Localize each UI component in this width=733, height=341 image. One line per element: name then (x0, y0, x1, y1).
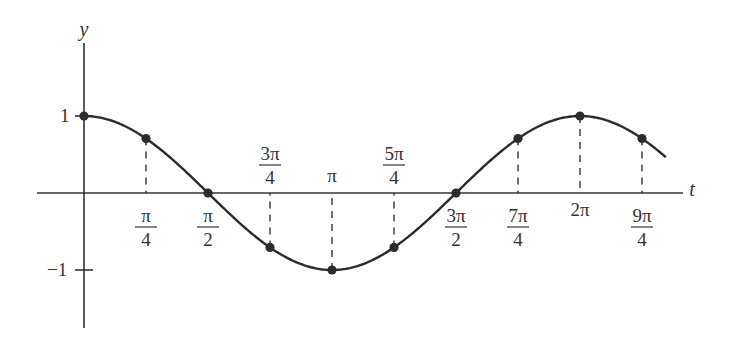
x-tick-label: π2 (197, 205, 219, 250)
svg-text:5π: 5π (384, 143, 404, 164)
data-point (141, 134, 150, 143)
svg-text:4: 4 (141, 229, 151, 250)
x-tick-label: 3π2 (445, 205, 467, 250)
x-tick-label: π4 (135, 205, 157, 250)
svg-text:π: π (327, 165, 337, 186)
data-point (203, 188, 212, 197)
x-tick-label: 2π (570, 199, 590, 220)
data-point (513, 134, 522, 143)
cosine-chart: 1−1ytπ4π23π4π5π43π27π42π9π4 (0, 0, 733, 341)
svg-text:4: 4 (637, 229, 647, 250)
data-point (451, 188, 460, 197)
data-point (79, 111, 88, 120)
svg-text:π: π (141, 205, 151, 226)
x-tick-label: 5π4 (383, 143, 405, 188)
svg-text:π: π (203, 205, 213, 226)
svg-text:3π: 3π (260, 143, 280, 164)
svg-text:4: 4 (389, 167, 399, 188)
data-point (327, 265, 336, 274)
svg-text:9π: 9π (632, 205, 652, 226)
svg-text:3π: 3π (446, 205, 466, 226)
svg-text:2π: 2π (570, 199, 590, 220)
svg-text:2: 2 (451, 229, 461, 250)
svg-text:7π: 7π (508, 205, 528, 226)
y-axis-label: y (78, 18, 89, 41)
x-tick-label: 9π4 (631, 205, 653, 250)
x-tick-label: π (327, 165, 337, 186)
y-tick-label: −1 (47, 259, 67, 280)
x-axis-label: t (689, 178, 695, 200)
tick-labels: 1−1ytπ4π23π4π5π43π27π42π9π4 (47, 18, 695, 280)
axes (37, 43, 683, 328)
data-point (389, 243, 398, 252)
x-tick-label: 3π4 (259, 143, 281, 188)
svg-text:4: 4 (513, 229, 523, 250)
y-tick-label: 1 (60, 105, 70, 126)
data-point (637, 134, 646, 143)
data-point (265, 243, 274, 252)
x-tick-label: 7π4 (507, 205, 529, 250)
svg-text:2: 2 (203, 229, 213, 250)
data-point (575, 111, 584, 120)
svg-text:4: 4 (265, 167, 275, 188)
